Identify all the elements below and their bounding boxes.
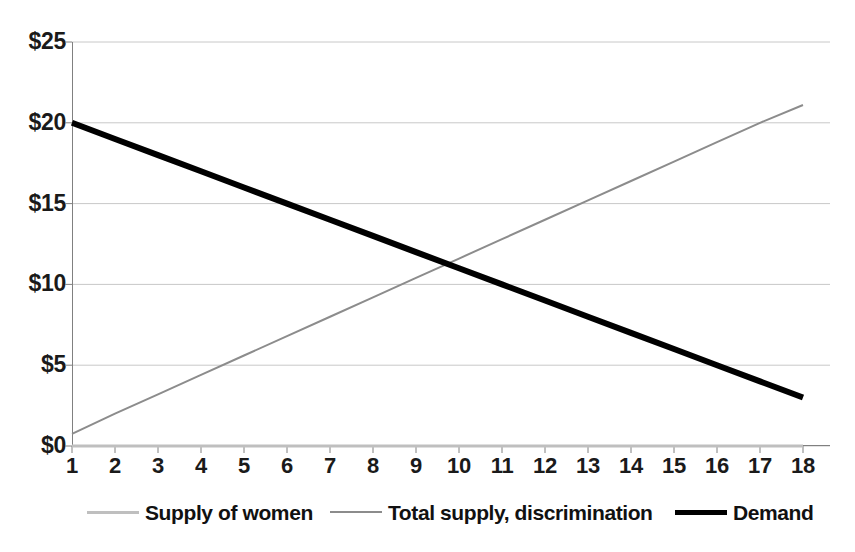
x-axis-tick-label: 14 <box>609 455 653 477</box>
legend-label: Total supply, discrimination <box>388 502 653 523</box>
y-axis-tick-label: $15 <box>2 192 66 215</box>
x-axis-tick-label: 3 <box>136 455 180 477</box>
x-axis-tick-label: 12 <box>523 455 567 477</box>
plot-area <box>72 42 830 446</box>
y-axis-tick-label: $25 <box>2 30 66 53</box>
x-axis-tick-label: 8 <box>351 455 395 477</box>
series-lines <box>72 105 803 446</box>
legend-item[interactable]: Supply of women <box>87 497 313 527</box>
legend-label: Supply of women <box>145 502 313 523</box>
x-axis-tick-label: 18 <box>781 455 825 477</box>
plot-svg <box>72 42 830 446</box>
x-axis-tick-label: 4 <box>179 455 223 477</box>
y-axis-tick-label: $20 <box>2 111 66 134</box>
gridlines <box>72 42 830 446</box>
x-axis-tick-label: 13 <box>566 455 610 477</box>
x-axis-tick-label: 5 <box>222 455 266 477</box>
legend-item[interactable]: Total supply, discrimination <box>330 497 653 527</box>
x-axis-tick-label: 9 <box>394 455 438 477</box>
y-axis-tick-label: $5 <box>2 353 66 376</box>
axis-lines <box>72 42 830 446</box>
x-axis-tick-label: 17 <box>738 455 782 477</box>
series-line-demand <box>72 123 803 398</box>
chart-legend: Supply of womenTotal supply, discriminat… <box>0 497 855 541</box>
y-axis-tick-label: $0 <box>2 434 66 457</box>
x-axis-ticks <box>65 42 803 453</box>
x-axis-tick-label: 11 <box>480 455 524 477</box>
x-axis-tick-label: 10 <box>437 455 481 477</box>
x-axis-tick-label: 1 <box>50 455 94 477</box>
legend-swatch-icon <box>675 510 727 515</box>
line-chart: $0$5$10$15$20$25 12345678910111213141516… <box>0 0 855 552</box>
legend-label: Demand <box>733 502 813 523</box>
x-axis-tick-label: 7 <box>308 455 352 477</box>
legend-item[interactable]: Demand <box>675 497 813 527</box>
x-axis-labels: 123456789101112131415161718 <box>0 455 855 487</box>
y-axis-tick-label: $10 <box>2 272 66 295</box>
x-axis-tick-label: 15 <box>652 455 696 477</box>
legend-swatch-icon <box>330 511 382 513</box>
x-axis-tick-label: 16 <box>695 455 739 477</box>
x-axis-tick-label: 2 <box>93 455 137 477</box>
series-line-total-supply-discrimination <box>72 105 803 434</box>
x-axis-tick-label: 6 <box>265 455 309 477</box>
legend-swatch-icon <box>87 511 139 514</box>
